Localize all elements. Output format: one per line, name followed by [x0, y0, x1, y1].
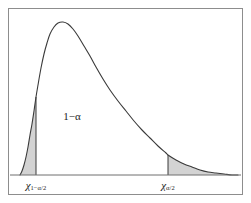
chi-square-density-chart [0, 0, 251, 203]
axis-tick-label-lower-critical-value: χ1−α/2 [26, 180, 47, 192]
shaded-tail-regions [20, 97, 238, 175]
lower-tail-shaded-area [20, 97, 36, 175]
chi-square-confidence-interval-figure: 1−α χ1−α/2 χα/2 [0, 0, 251, 203]
chi-subscript-lower: 1−α/2 [30, 184, 46, 191]
chi-square-density-curve [20, 22, 238, 175]
upper-tail-shaded-area [168, 155, 238, 175]
axis-tick-label-upper-critical-value: χα/2 [161, 180, 175, 192]
confidence-level-label: 1−α [63, 111, 80, 122]
chi-subscript-upper: α/2 [166, 184, 175, 191]
